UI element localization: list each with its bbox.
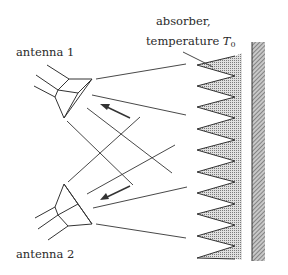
antenna-2-label: antenna 2: [16, 247, 74, 261]
temperature-word: temperature: [146, 34, 223, 48]
antenna-1: [34, 65, 92, 118]
arrow-to-antenna-1: [100, 104, 130, 118]
rays: [67, 64, 187, 238]
antenna-2: [35, 184, 92, 240]
arrow-to-antenna-2: [100, 186, 130, 200]
absorber: [197, 53, 242, 260]
temperature-subscript: 0: [231, 40, 236, 49]
wall: [252, 42, 265, 261]
antenna-1-label: antenna 1: [16, 45, 74, 59]
diagram-canvas: absorber, temperature T0 antenna 1 anten…: [0, 0, 288, 275]
absorber-label-line1: absorber,: [156, 14, 211, 28]
absorber-label-line2: temperature T0: [146, 34, 236, 49]
